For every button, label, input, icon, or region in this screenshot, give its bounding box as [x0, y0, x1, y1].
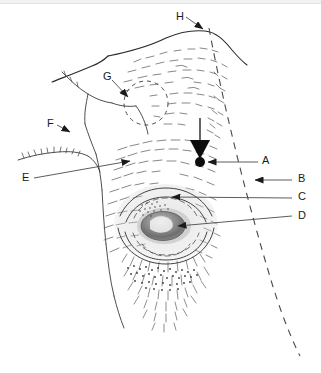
label-B: B: [298, 173, 305, 184]
dashed-planning-circle: [124, 81, 168, 125]
vein-tick-marks: [22, 71, 80, 158]
figure-root: A B C D E F G H: [0, 0, 321, 373]
drawing-canvas: [0, 0, 321, 373]
leader-line-H: [186, 17, 203, 29]
leader-line-G: [112, 80, 128, 97]
areola-complex: [114, 184, 218, 291]
inferior-fan-hatching: [122, 254, 209, 332]
breast-outline: [52, 31, 247, 82]
leader-line-F: [57, 125, 70, 132]
dashed-guide-line: [209, 28, 300, 356]
label-H: H: [176, 11, 184, 22]
label-F: F: [47, 118, 54, 129]
label-D: D: [298, 210, 306, 221]
label-G: G: [103, 71, 112, 82]
nipple-marker-dot: [195, 157, 205, 167]
label-E: E: [22, 172, 29, 183]
large-down-arrow: [190, 118, 210, 159]
label-A: A: [262, 155, 269, 166]
label-C: C: [298, 191, 306, 202]
skin-texture-hatching: [120, 48, 227, 138]
